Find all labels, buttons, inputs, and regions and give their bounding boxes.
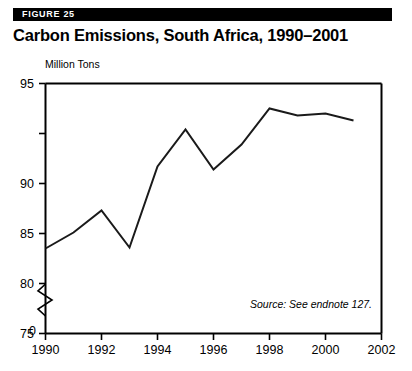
source-note: Source: See endnote 127. (250, 298, 372, 310)
line-chart: Million Tons 95 90 85 80 75 (0, 52, 412, 371)
x-tick-label-1996: 1996 (200, 343, 228, 357)
y-tick-zero-text: 0 (29, 324, 36, 338)
x-tick-label-2000: 2000 (312, 343, 340, 357)
plot-frame (46, 84, 382, 334)
x-tick-label-1994: 1994 (144, 343, 172, 357)
y-tick-label-95: 95 (20, 77, 34, 91)
x-tick-label-2002: 2002 (368, 343, 396, 357)
y-tick-label-90: 90 (20, 177, 34, 191)
y-tick-label-85: 85 (20, 227, 34, 241)
emissions-data-line (46, 109, 354, 249)
x-tick-label-1992: 1992 (88, 343, 116, 357)
x-tick-label-1998: 1998 (256, 343, 284, 357)
chart-container: Million Tons 95 90 85 80 75 (0, 52, 412, 371)
y-tick-label-zero: 0 (24, 325, 36, 337)
y-tick-label-80: 80 (20, 277, 34, 291)
x-tick-label-1990: 1990 (32, 343, 60, 357)
page-title: Carbon Emissions, South Africa, 1990–200… (13, 26, 348, 45)
figure-number-label: FIGURE 25 (22, 9, 75, 20)
figure-header-bar: FIGURE 25 (13, 8, 392, 21)
y-axis-unit-label: Million Tons (45, 58, 100, 70)
